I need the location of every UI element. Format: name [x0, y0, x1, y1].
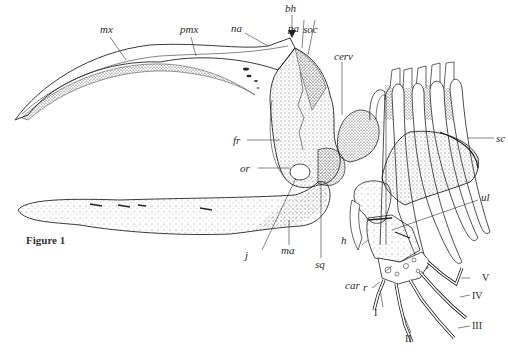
label-premaxilla: pmx: [180, 24, 198, 35]
label-nasal: na: [231, 23, 242, 34]
label-jugal: j: [245, 250, 248, 261]
label-humerus: h: [341, 235, 347, 246]
figure-caption: Figure 1: [26, 235, 65, 246]
scapula: [382, 131, 478, 205]
label-frontal: fr: [233, 135, 240, 146]
label-parietal: pa: [288, 23, 299, 34]
label-supraoccipital: soc: [303, 24, 318, 35]
label-cervical: cerv: [334, 51, 353, 62]
label-orbit: or: [240, 163, 250, 174]
skeleton-illustration: [0, 0, 508, 353]
label-squamosal: sq: [315, 259, 325, 270]
label-digit-III: III: [472, 321, 482, 331]
label-blowhole: bh: [285, 3, 296, 14]
mandible: [18, 182, 330, 235]
rostrum: [15, 38, 295, 120]
label-digit-I: I: [374, 308, 377, 318]
label-ulna: ul: [481, 192, 490, 203]
label-digit-V: V: [482, 273, 489, 283]
label-mandible: ma: [281, 245, 294, 256]
label-digit-II: II: [405, 334, 412, 344]
label-radius: r: [363, 282, 367, 293]
cranium: [270, 48, 345, 188]
label-maxilla: mx: [100, 24, 113, 35]
label-carpals: car: [345, 280, 360, 291]
label-digit-IV: IV: [472, 291, 483, 301]
label-scapula: sc: [496, 133, 505, 144]
